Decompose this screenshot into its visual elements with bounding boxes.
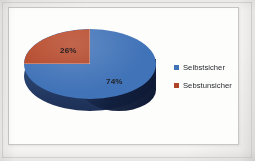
plot-area: 26% 74% Selbstsicher Sebstunsicher [8, 7, 239, 145]
pie-slice-sebstunsicher[interactable] [24, 29, 156, 99]
chart-legend: Selbstsicher Sebstunsicher [174, 59, 238, 95]
legend-label-selbstsicher: Selbstsicher [183, 63, 225, 72]
pie-top-face [24, 29, 156, 99]
legend-swatch-sebstunsicher-icon [174, 83, 179, 88]
pie-slice-divider-horizontal [24, 63, 90, 64]
data-label-sebstunsicher: 26% [60, 46, 77, 55]
chart-screenshot: 26% 74% Selbstsicher Sebstunsicher [0, 0, 255, 161]
legend-item-selbstsicher[interactable]: Selbstsicher [174, 59, 238, 75]
pie-chart: 26% 74% [24, 29, 156, 113]
data-label-selbstsicher: 74% [106, 77, 123, 86]
pie-slice-divider-vertical [89, 29, 90, 64]
legend-item-sebstunsicher[interactable]: Sebstunsicher [174, 77, 238, 93]
legend-swatch-selbstsicher-icon [174, 65, 179, 70]
legend-label-sebstunsicher: Sebstunsicher [183, 81, 232, 90]
